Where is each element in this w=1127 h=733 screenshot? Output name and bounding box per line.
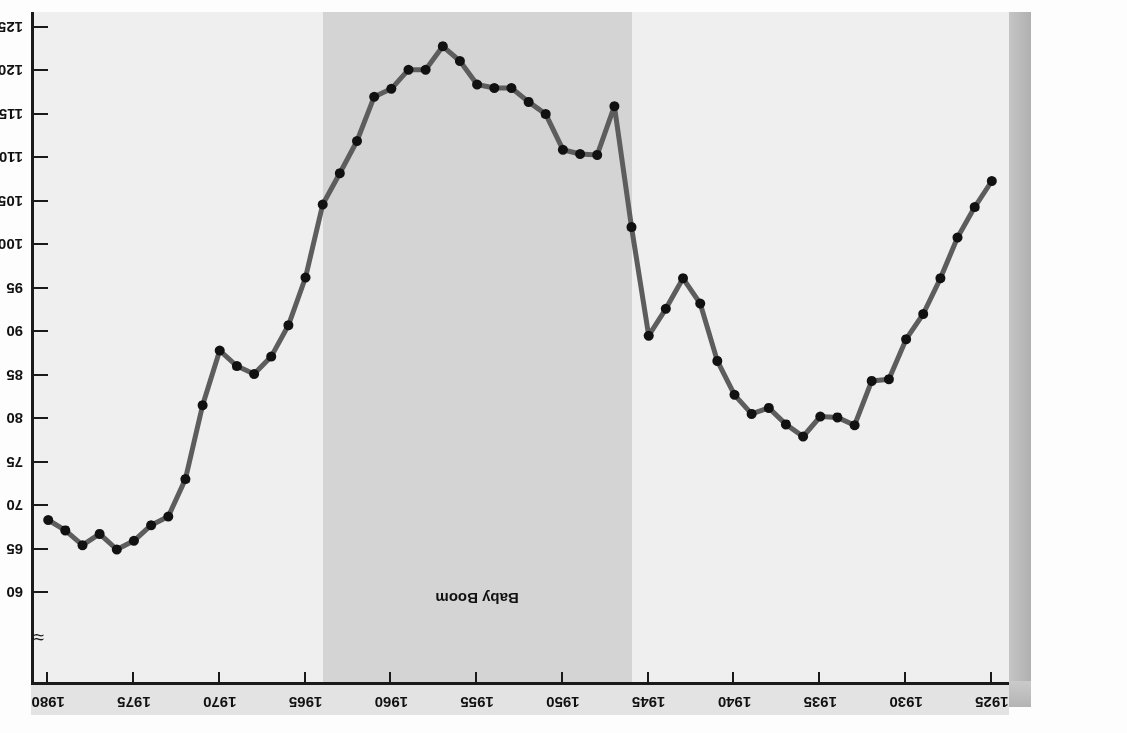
x-axis-line [31,682,1009,685]
data-point-1949 [575,149,585,159]
y-tick-label-125: 125 [0,20,23,37]
data-point-1977 [95,529,105,539]
y-tick-115 [33,113,48,115]
x-tick-label-1940: 1940 [718,694,751,711]
data-point-1956 [455,56,465,66]
x-tick-1940 [732,672,734,685]
y-tick-label-115: 115 [0,106,23,123]
data-point-1953 [506,83,516,93]
x-tick-label-1975: 1975 [117,694,150,711]
data-point-1967 [266,352,276,362]
y-tick-label-65: 65 [6,541,23,558]
x-tick-label-1960: 1960 [375,694,408,711]
y-tick-label-95: 95 [6,280,23,297]
x-tick-1935 [818,672,820,685]
y-tick-label-70: 70 [6,498,23,515]
y-tick-90 [33,330,48,332]
x-tick-label-1925: 1925 [975,694,1008,711]
data-point-1975 [129,536,139,546]
x-tick-label-1945: 1945 [632,694,665,711]
data-point-1948 [592,150,602,160]
y-tick-70 [33,504,48,506]
data-point-1942 [695,299,705,309]
x-tick-1965 [304,672,306,685]
y-tick-105 [33,200,48,202]
y-tick-110 [33,156,48,158]
x-axis-label-strip [31,683,1009,715]
data-point-1980 [43,515,53,525]
data-point-1936 [798,432,808,442]
data-point-1962 [352,136,362,146]
data-point-1938 [764,403,774,413]
data-point-1944 [661,304,671,314]
data-point-1972 [180,474,190,484]
data-point-1947 [609,101,619,111]
x-tick-label-1935: 1935 [804,694,837,711]
data-point-1959 [404,65,414,75]
data-point-1941 [712,356,722,366]
data-point-1950 [558,145,568,155]
y-tick-65 [33,548,48,550]
data-point-1955 [472,80,482,90]
data-point-1954 [489,83,499,93]
data-point-1968 [249,369,259,379]
data-point-1978 [78,540,88,550]
x-tick-label-1950: 1950 [546,694,579,711]
y-tick-label-105: 105 [0,193,23,210]
y-tick-label-80: 80 [6,411,23,428]
x-tick-1925 [990,672,992,685]
y-tick-label-90: 90 [6,324,23,341]
series-polyline [48,46,992,549]
data-point-1958 [421,65,431,75]
x-tick-1955 [475,672,477,685]
data-point-1932 [867,376,877,386]
data-point-1966 [283,320,293,330]
x-tick-label-1965: 1965 [289,694,322,711]
y-tick-label-110: 110 [0,150,23,167]
x-tick-label-1970: 1970 [203,694,236,711]
data-point-1969 [232,361,242,371]
x-tick-label-1930: 1930 [889,694,922,711]
data-point-1943 [678,273,688,283]
data-point-1979 [60,525,70,535]
data-point-1937 [781,419,791,429]
data-point-1925 [987,176,997,186]
y-tick-95 [33,287,48,289]
y-tick-label-100: 100 [0,237,23,254]
data-point-1952 [524,97,534,107]
y-tick-label-60: 60 [6,585,23,602]
data-point-1928 [935,273,945,283]
x-tick-1975 [132,672,134,685]
data-point-1946 [627,222,637,232]
y-tick-label-85: 85 [6,367,23,384]
y-tick-label-75: 75 [6,454,23,471]
x-tick-1930 [904,672,906,685]
y-tick-100 [33,243,48,245]
y-tick-125 [33,26,48,28]
x-tick-label-1955: 1955 [460,694,493,711]
data-point-1939 [747,409,757,419]
y-tick-75 [33,461,48,463]
x-tick-1945 [647,672,649,685]
data-point-1935 [815,412,825,422]
data-point-1973 [163,512,173,522]
rotated-figure: the early years of the century, the birt… [0,0,1127,733]
y-tick-120 [33,69,48,71]
x-tick-label-1980: 1980 [31,694,64,711]
data-point-1970 [215,346,225,356]
y-tick-60 [33,591,48,593]
y-tick-80 [33,417,48,419]
data-point-1927 [953,233,963,243]
data-point-1963 [335,168,345,178]
data-point-1974 [146,520,156,530]
data-point-1960 [386,84,396,94]
data-point-1929 [918,309,928,319]
data-point-1961 [369,92,379,102]
data-point-1926 [970,202,980,212]
data-point-1930 [901,334,911,344]
x-tick-1970 [218,672,220,685]
data-point-1965 [301,273,311,283]
plot-frame: Baby Boom [31,12,1009,685]
x-tick-1960 [389,672,391,685]
data-point-1976 [112,545,122,555]
